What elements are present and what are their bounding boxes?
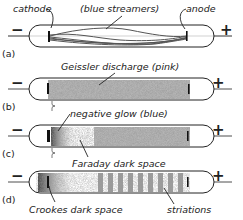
anode-label: anode <box>186 3 216 14</box>
panel-label: (d) <box>2 194 15 205</box>
minus-sign: − <box>11 74 24 92</box>
anode-electrode <box>188 84 190 94</box>
plus-sign: + <box>212 167 225 185</box>
cathode-electrode <box>48 31 50 42</box>
faraday-label: Faraday dark space <box>72 158 166 169</box>
anode-electrode <box>187 131 189 141</box>
plus-sign: + <box>212 121 225 139</box>
crookes-label: Crookes dark space <box>29 204 123 215</box>
panel-label: (b) <box>2 101 15 112</box>
plus-sign: + <box>212 74 225 92</box>
anode-electrode <box>187 177 189 187</box>
minus-sign: − <box>11 167 24 185</box>
cathode-label: cathode <box>13 3 52 14</box>
panel-d: − + (d) Crookes dark space striations <box>2 167 232 215</box>
minus-sign: − <box>11 21 24 39</box>
striations-label: striations <box>167 204 211 215</box>
plus-sign: + <box>220 21 233 39</box>
cathode-electrode <box>47 130 50 142</box>
gas-discharge-diagram: − + (a) cathode (blue streamers) anode −… <box>0 0 243 220</box>
panel-c: − + (c) negative glow (blue) Faraday dar… <box>2 108 232 169</box>
anode-electrode <box>186 31 188 41</box>
panel-label: (c) <box>2 148 15 159</box>
glow-label: negative glow (blue) <box>70 108 168 119</box>
discharge-label: Geissler discharge (pink) <box>61 61 179 72</box>
cathode-electrode <box>47 83 49 94</box>
panel-a: − + (a) cathode (blue streamers) anode <box>2 3 233 59</box>
minus-sign: − <box>11 121 24 139</box>
panel-label: (a) <box>2 48 15 59</box>
panel-b: − + (b) Geissler discharge (pink) <box>2 61 232 112</box>
streamers-label: (blue streamers) <box>80 3 159 14</box>
